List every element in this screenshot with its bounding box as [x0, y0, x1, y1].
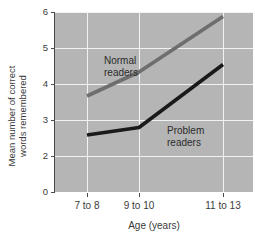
x-axis-title: Age (years) [55, 220, 253, 232]
series-label-normal-readers: Normal readers [104, 55, 138, 78]
x-tick-label-9-to-10: 9 to 10 [104, 200, 174, 212]
series-label-problem-line-1: Problem [167, 125, 204, 137]
series-label-normal-line-2: readers [104, 67, 138, 79]
series-label-problem-line-2: readers [167, 137, 204, 149]
x-tick-label-11-to-13: 11 to 13 [188, 200, 255, 212]
y-tick-label-0: 0 [26, 187, 48, 197]
y-axis-title-line-1: Mean number of correct [6, 66, 18, 167]
chart-figure: Mean number of correct words remembered … [0, 0, 255, 240]
y-tick-label-4: 4 [26, 79, 48, 89]
y-tick-label-2: 2 [26, 151, 48, 161]
x-tick-mark-9-to-10 [139, 193, 140, 197]
x-tick-mark-11-to-13 [223, 193, 224, 197]
y-tick-label-3: 3 [26, 115, 48, 125]
plot-area: Normal readers Problem readers [55, 12, 253, 192]
y-tick-label-5: 5 [26, 43, 48, 53]
series-label-normal-line-1: Normal [104, 55, 138, 67]
series-label-problem-readers: Problem readers [167, 125, 204, 148]
x-tick-mark-7-to-8 [87, 193, 88, 197]
series-lines [55, 12, 253, 192]
y-tick-label-6: 6 [26, 7, 48, 17]
